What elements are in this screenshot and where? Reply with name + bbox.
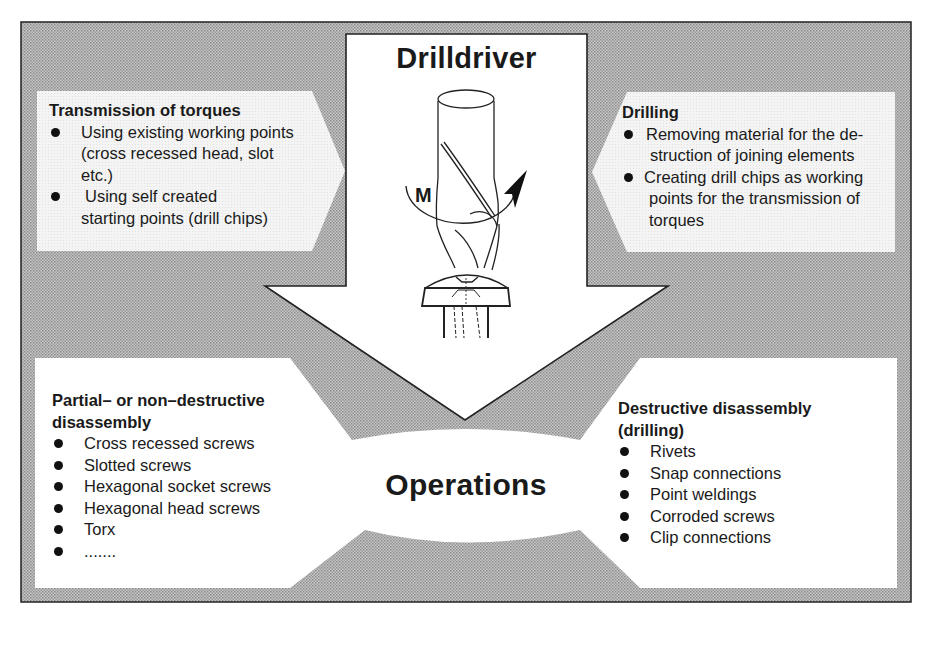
top-left-item: Using self created starting points (dril… bbox=[49, 186, 329, 229]
bottom-left-text-block: Partial– or non–destructive disassembly … bbox=[52, 390, 322, 562]
bullet-icon bbox=[51, 128, 60, 137]
item-label: Cross recessed screws bbox=[84, 434, 255, 452]
top-right-item-line: struction of joining elements bbox=[646, 145, 912, 167]
top-right-item: Removing material for the de- struction … bbox=[622, 124, 912, 167]
bottom-left-item: Hexagonal socket screws bbox=[52, 476, 322, 498]
item-label: Slotted screws bbox=[84, 456, 191, 474]
bottom-right-title: Destructive disassembly bbox=[618, 398, 888, 420]
bullet-icon bbox=[620, 490, 629, 499]
bottom-right-item: Clip connections bbox=[618, 527, 888, 549]
top-right-item-line: torques bbox=[644, 210, 912, 232]
top-left-item-line: (cross recessed head, slot bbox=[81, 143, 329, 165]
operations-title: Operations bbox=[380, 468, 552, 502]
bottom-left-item: Hexagonal head screws bbox=[52, 498, 322, 520]
top-left-item-line: starting points (drill chips) bbox=[81, 208, 329, 230]
top-left-item-line: etc.) bbox=[81, 165, 329, 187]
bullet-icon bbox=[54, 461, 63, 470]
item-label: Point weldings bbox=[650, 485, 756, 503]
item-label: Clip connections bbox=[650, 528, 771, 546]
bullet-icon bbox=[54, 547, 63, 556]
drilldriver-title: Drilldriver bbox=[346, 42, 587, 75]
item-label: Corroded screws bbox=[650, 507, 775, 525]
bottom-left-item: ....... bbox=[52, 541, 322, 563]
bullet-icon bbox=[624, 173, 633, 182]
bottom-left-item: Slotted screws bbox=[52, 455, 322, 477]
bottom-right-item: Point weldings bbox=[618, 484, 888, 506]
torque-label: M bbox=[415, 184, 432, 207]
item-label: Rivets bbox=[650, 442, 696, 460]
bottom-right-item: Snap connections bbox=[618, 463, 888, 485]
item-label: Hexagonal socket screws bbox=[84, 477, 271, 495]
top-left-item: Using existing working points (cross rec… bbox=[49, 122, 329, 187]
item-label: Snap connections bbox=[650, 464, 781, 482]
bullet-icon bbox=[54, 482, 63, 491]
top-right-item: Creating drill chips as working points f… bbox=[622, 167, 912, 232]
top-right-item-line: Removing material for the de- bbox=[646, 124, 912, 146]
top-right-item-line: Creating drill chips as working bbox=[644, 167, 912, 189]
bottom-left-item: Torx bbox=[52, 519, 322, 541]
top-right-item-line: points for the transmission of bbox=[644, 188, 912, 210]
bullet-icon bbox=[624, 130, 633, 139]
bullet-icon bbox=[54, 525, 63, 534]
bottom-left-item: Cross recessed screws bbox=[52, 433, 322, 455]
top-left-title: Transmission of torques bbox=[49, 100, 329, 122]
bottom-right-item: Corroded screws bbox=[618, 506, 888, 528]
top-right-title: Drilling bbox=[622, 102, 912, 124]
bottom-right-text-block: Destructive disassembly (drilling) Rivet… bbox=[618, 398, 888, 549]
top-left-item-line: Using existing working points bbox=[81, 122, 329, 144]
top-left-text-block: Transmission of torques Using existing w… bbox=[49, 100, 329, 229]
bottom-left-title: Partial– or non–destructive bbox=[52, 390, 322, 412]
bottom-right-item: Rivets bbox=[618, 441, 888, 463]
bullet-icon bbox=[620, 512, 629, 521]
bullet-icon bbox=[51, 192, 60, 201]
item-label: Torx bbox=[84, 520, 115, 538]
bottom-left-title: disassembly bbox=[52, 412, 322, 434]
bullet-icon bbox=[620, 533, 629, 542]
bullet-icon bbox=[620, 447, 629, 456]
bullet-icon bbox=[620, 469, 629, 478]
item-label: ....... bbox=[84, 542, 116, 560]
bullet-icon bbox=[54, 439, 63, 448]
bottom-right-title: (drilling) bbox=[618, 420, 888, 442]
top-right-text-block: Drilling Removing material for the de- s… bbox=[622, 102, 912, 231]
bullet-icon bbox=[54, 504, 63, 513]
top-left-item-line: Using self created bbox=[81, 186, 329, 208]
item-label: Hexagonal head screws bbox=[84, 499, 260, 517]
